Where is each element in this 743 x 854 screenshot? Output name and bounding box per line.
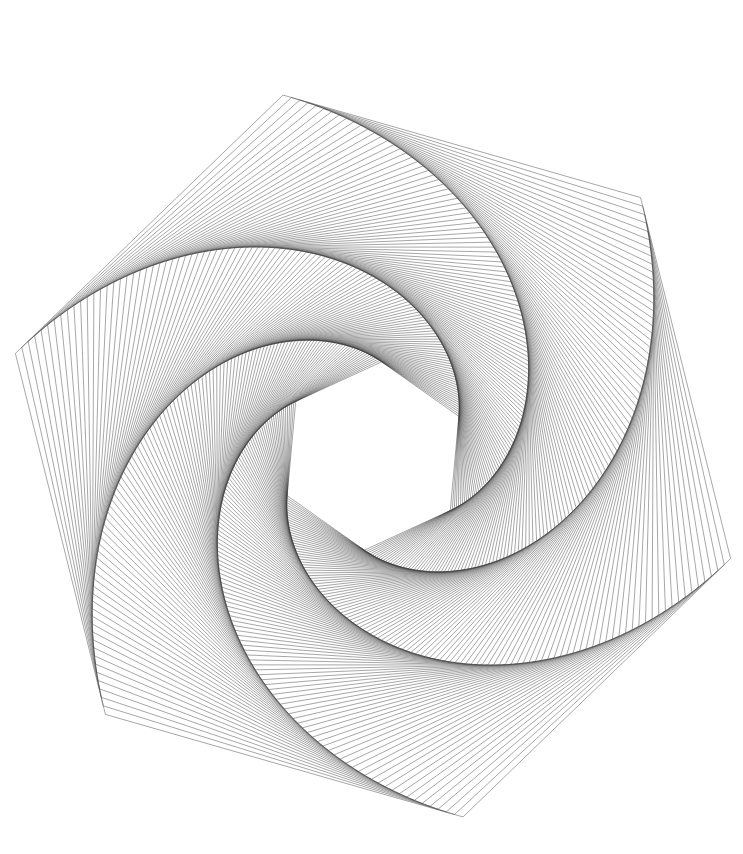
background-rect	[0, 0, 743, 854]
whirling-hexagon-spiral: Whirling Hexagon Spiral Iterated rotatin…	[0, 0, 743, 854]
figure-canvas: Whirling Hexagon Spiral Iterated rotatin…	[0, 0, 743, 854]
